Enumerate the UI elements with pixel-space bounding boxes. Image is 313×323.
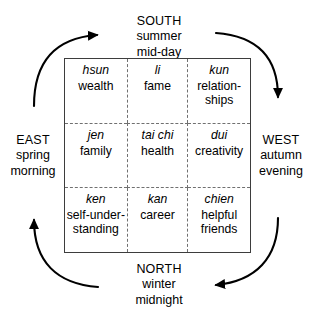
cell-meaning: self-under- standing [67, 208, 125, 237]
grid-cell-top-center: li fame [127, 59, 189, 123]
grid-cell-bottom-center: kan career [127, 188, 189, 252]
compass-season-east: spring [2, 148, 64, 163]
cell-trigram: chien [205, 192, 234, 206]
compass-season-west: autumn [250, 148, 312, 163]
cell-meaning: creativity [195, 144, 243, 158]
compass-direction-east: EAST [2, 133, 64, 148]
bagua-diagram: SOUTH summer mid-day NORTH winter midnig… [0, 0, 313, 323]
grid-cell-middle-center: tai chi health [127, 123, 189, 187]
compass-time-east: morning [2, 164, 64, 179]
grid-cell-middle-left: jen family [65, 123, 127, 187]
cell-trigram: tai chi [142, 128, 174, 142]
cell-meaning: health [141, 144, 174, 158]
compass-label-north: NORTH winter midnight [107, 262, 211, 308]
compass-direction-west: WEST [250, 133, 312, 148]
compass-time-north: midnight [107, 293, 211, 308]
cell-meaning: career [140, 208, 175, 222]
cell-meaning: relation- ships [197, 79, 241, 108]
grid-cell-bottom-right: chien helpful friends [188, 188, 250, 252]
cell-trigram: dui [211, 128, 227, 142]
grid-cell-top-left: hsun wealth [65, 59, 127, 123]
cell-trigram: ken [86, 192, 106, 206]
compass-season-north: winter [107, 277, 211, 292]
cell-trigram: hsun [83, 63, 109, 77]
cell-meaning: fame [144, 79, 171, 93]
cell-trigram: jen [88, 128, 104, 142]
cell-trigram: kan [148, 192, 168, 206]
grid-cell-bottom-left: ken self-under- standing [65, 188, 127, 252]
cell-trigram: kun [209, 63, 229, 77]
compass-season-south: summer [107, 29, 211, 44]
compass-label-west: WEST autumn evening [250, 133, 312, 179]
cell-meaning: wealth [78, 79, 113, 93]
cell-meaning: family [80, 144, 112, 158]
compass-label-east: EAST spring morning [2, 133, 64, 179]
cell-meaning: helpful friends [201, 208, 238, 237]
compass-time-west: evening [250, 164, 312, 179]
compass-label-south: SOUTH summer mid-day [107, 14, 211, 60]
grid-cell-middle-right: dui creativity [188, 123, 250, 187]
cell-trigram: li [155, 63, 160, 77]
grid-cell-top-right: kun relation- ships [188, 59, 250, 123]
bagua-grid: hsun wealth li fame kun relation- ships … [64, 58, 251, 253]
compass-direction-north: NORTH [107, 262, 211, 277]
compass-direction-south: SOUTH [107, 14, 211, 29]
